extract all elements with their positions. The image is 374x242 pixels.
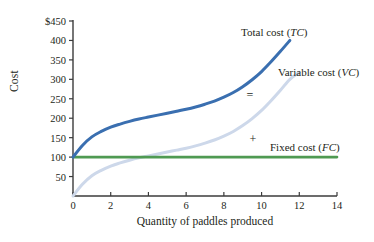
y-axis-tick-label: 350 <box>50 54 66 65</box>
fixed-cost-label-text: Fixed cost ( <box>270 141 322 153</box>
x-axis-tick-label: 6 <box>184 200 189 211</box>
total-cost-label-text: Total cost ( <box>241 26 290 38</box>
series-label-total-cost: Total cost (TC) <box>241 26 307 38</box>
series-label-fixed-cost: Fixed cost (FC) <box>270 141 340 153</box>
series-curve-variable-cost-vc <box>73 72 299 196</box>
y-axis-title: Cost <box>8 70 20 92</box>
plus-operator: + <box>248 133 258 145</box>
series-curves <box>73 40 337 196</box>
y-axis-tick-label: 100 <box>50 152 66 163</box>
y-axis-tick-label: 150 <box>50 132 66 143</box>
x-axis-tick-label: 0 <box>70 200 75 211</box>
x-axis-tick-label: 8 <box>221 200 226 211</box>
y-axis-tick-label: $450 <box>45 16 66 27</box>
variable-cost-label-text: Variable cost ( <box>278 66 342 78</box>
axes-group <box>73 20 337 196</box>
series-label-variable-cost: Variable cost (VC) <box>278 66 359 78</box>
variable-cost-label-symbol: VC <box>342 66 356 78</box>
y-axis-tick-label: 50 <box>56 171 67 182</box>
y-axis-tick-label: 200 <box>50 113 66 124</box>
fixed-cost-label-symbol: FC <box>322 141 336 153</box>
x-axis-tick-label: 2 <box>108 200 113 211</box>
y-axis-tick-label: 250 <box>50 93 66 104</box>
equals-operator: = <box>245 89 255 101</box>
variable-cost-label-tail: ) <box>356 66 360 78</box>
x-axis-tick-label: 12 <box>294 200 305 211</box>
x-axis-title: Quantity of paddles produced <box>73 215 337 227</box>
fixed-cost-label-tail: ) <box>336 141 340 153</box>
x-axis-tick-label: 4 <box>146 200 151 211</box>
cost-curves-chart: 50100150200250300350400$450 02468101214 … <box>0 0 374 242</box>
y-axis-tick-label: 300 <box>50 74 66 85</box>
y-axis-tick-label: 400 <box>50 35 66 46</box>
x-axis-tick-label: 14 <box>332 200 343 211</box>
x-axis-tick-label: 10 <box>256 200 267 211</box>
total-cost-label-tail: ) <box>304 26 308 38</box>
total-cost-label-symbol: TC <box>290 26 303 38</box>
